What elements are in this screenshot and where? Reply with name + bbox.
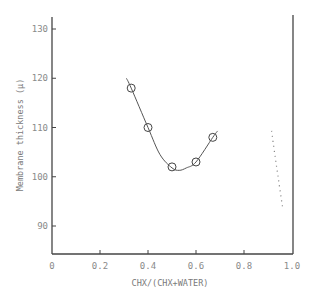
dotted-curve: [272, 131, 283, 206]
y-tick-label: 110: [32, 123, 48, 133]
plot-area: [126, 78, 282, 206]
y-tick-label: 130: [32, 24, 48, 34]
x-tick-label: 0: [49, 261, 54, 271]
x-tick-label: 0.4: [140, 261, 156, 271]
y-axis-label: Membrane thickness (μ): [15, 79, 25, 192]
x-tick-label: 1.0: [284, 261, 300, 271]
chart: 00.20.40.60.81.0 90100110120130 CHX/(CHX…: [0, 0, 317, 301]
x-tick-label: 0.6: [188, 261, 204, 271]
y-tick-label: 90: [37, 221, 48, 231]
y-tick-label: 120: [32, 73, 48, 83]
axes: [52, 15, 293, 254]
x-tick-label: 0.8: [236, 261, 252, 271]
x-axis-ticks: 00.20.40.60.81.0: [49, 250, 300, 271]
x-axis-label: CHX/(CHX+WATER): [132, 278, 209, 288]
y-tick-label: 100: [32, 172, 48, 182]
fitted-curve: [126, 78, 217, 170]
x-tick-label: 0.2: [92, 261, 108, 271]
